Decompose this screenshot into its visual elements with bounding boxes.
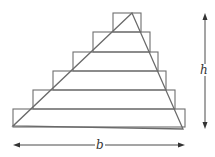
step-5 xyxy=(33,90,175,109)
height-label: h xyxy=(199,64,209,76)
base-label: b xyxy=(95,139,105,151)
arrow-up-icon xyxy=(203,13,208,20)
arrow-down-icon xyxy=(203,122,208,129)
step-6 xyxy=(13,109,185,127)
arrow-right-icon xyxy=(178,143,185,148)
stepped-triangle-diagram xyxy=(0,0,215,157)
step-3 xyxy=(73,52,158,71)
arrow-left-icon xyxy=(13,143,20,148)
steps-group xyxy=(13,13,185,127)
step-4 xyxy=(53,71,166,90)
